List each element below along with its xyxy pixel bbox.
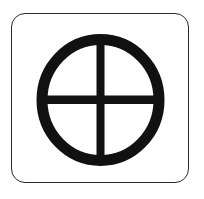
cross-horizontal-bar xyxy=(40,96,161,105)
sun-cross-icon xyxy=(0,0,204,199)
